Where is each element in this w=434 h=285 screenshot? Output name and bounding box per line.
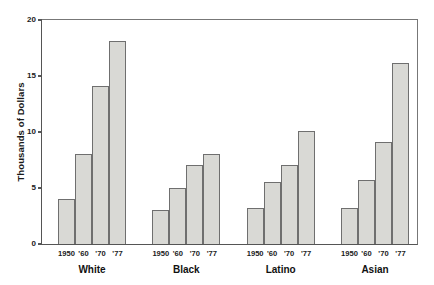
bar-latino-77 xyxy=(298,131,315,244)
bar-group-asian: 1950'60'70'77Asian xyxy=(341,20,409,244)
y-tick-mark xyxy=(38,187,42,188)
y-tick-mark xyxy=(38,75,42,76)
x-tick-label: '60 xyxy=(173,249,183,258)
plot-area: 05101520 1950'60'70'77White1950'60'70'77… xyxy=(41,19,418,245)
x-tick-label: 1950 xyxy=(152,249,169,258)
group-label-latino: Latino xyxy=(266,264,296,275)
group-label-black: Black xyxy=(173,264,200,275)
x-tick-label: '77 xyxy=(395,249,405,258)
bar-black-77 xyxy=(203,154,220,244)
y-tick-label: 10 xyxy=(27,126,36,138)
x-tick-label: '60 xyxy=(361,249,371,258)
y-tick-label: 20 xyxy=(27,14,36,26)
x-tick-label: '77 xyxy=(301,249,311,258)
bar-latino-60 xyxy=(264,182,281,244)
y-tick-mark xyxy=(38,131,42,132)
y-tick-mark xyxy=(38,243,42,244)
y-tick-label: 0 xyxy=(32,238,36,250)
x-tick-label: '70 xyxy=(95,249,105,258)
bar-group-black: 1950'60'70'77Black xyxy=(152,20,220,244)
y-tick-mark xyxy=(38,19,42,20)
bar-chart-figure: Thousands of Dollars 05101520 1950'60'70… xyxy=(0,0,434,285)
bar-white-1950 xyxy=(58,199,75,244)
x-tick-label: '77 xyxy=(207,249,217,258)
bar-black-70 xyxy=(186,165,203,244)
bar-group-white: 1950'60'70'77White xyxy=(58,20,126,244)
bar-asian-60 xyxy=(358,180,375,244)
x-tick-label: 1950 xyxy=(58,249,75,258)
x-tick-label: '70 xyxy=(378,249,388,258)
bar-latino-70 xyxy=(281,165,298,244)
group-label-asian: Asian xyxy=(361,264,388,275)
bar-black-1950 xyxy=(152,210,169,244)
bar-asian-70 xyxy=(375,142,392,244)
bar-asian-77 xyxy=(392,63,409,244)
x-tick-label: 1950 xyxy=(341,249,358,258)
y-tick-label: 15 xyxy=(27,70,36,82)
x-tick-label: 1950 xyxy=(247,249,264,258)
y-tick-label: 5 xyxy=(32,182,36,194)
bar-white-60 xyxy=(75,154,92,244)
bar-latino-1950 xyxy=(247,208,264,244)
bar-black-60 xyxy=(169,188,186,245)
x-tick-label: '70 xyxy=(284,249,294,258)
group-label-white: White xyxy=(78,264,105,275)
y-axis-title: Thousands of Dollars xyxy=(14,19,28,245)
bar-white-70 xyxy=(92,86,109,244)
bar-white-77 xyxy=(109,41,126,244)
x-tick-label: '60 xyxy=(267,249,277,258)
bar-asian-1950 xyxy=(341,208,358,244)
x-tick-label: '60 xyxy=(78,249,88,258)
x-tick-label: '70 xyxy=(190,249,200,258)
bar-group-latino: 1950'60'70'77Latino xyxy=(247,20,315,244)
x-tick-label: '77 xyxy=(112,249,122,258)
